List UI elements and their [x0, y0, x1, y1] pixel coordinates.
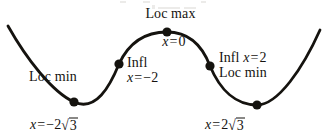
equals-sign: =	[36, 117, 46, 132]
label-loc-min-left: Loc min	[29, 70, 77, 85]
radical-sign: √	[229, 118, 237, 133]
label-loc-max: Loc max	[119, 7, 222, 22]
coefficient-minus-two: −2	[46, 117, 61, 132]
label-inflection-left-title: Infl	[127, 56, 158, 71]
label-inflection-right-block: Infl x=2 Loc min	[219, 51, 267, 81]
radicand-three: 3	[69, 118, 78, 133]
square-root-expression: √3	[61, 117, 77, 133]
label-local-max-x-value: x=0	[139, 35, 209, 50]
label-inflection-right-title: Infl	[219, 50, 240, 65]
equals-sign: =	[211, 117, 221, 132]
equals-sign: =	[169, 34, 179, 49]
radicand-three: 3	[236, 118, 245, 133]
value-minus-two: −2	[143, 70, 158, 85]
label-loc-min-left-text: Loc min	[29, 69, 77, 84]
value-zero: 0	[179, 34, 186, 49]
point-inflection-left	[114, 59, 123, 68]
variable-x: x	[162, 34, 168, 49]
point-inflection-right	[205, 61, 214, 70]
equals-sign: =	[250, 50, 260, 65]
value-two: 2	[260, 50, 267, 65]
point-local-minimum-right	[252, 100, 261, 109]
label-inflection-left: Infl x=−2	[127, 56, 158, 86]
calculus-curve-figure: Loc max x=0 Loc min Infl x=−2 Infl x=2 L…	[0, 0, 331, 140]
label-x-left-minimum: x=−2√3	[30, 117, 78, 133]
label-loc-max-text: Loc max	[145, 6, 195, 21]
label-inflection-right-line: Infl x=2	[219, 51, 267, 66]
radical-sign: √	[62, 118, 70, 133]
square-root-expression: √3	[228, 117, 244, 133]
label-loc-min-right: Loc min	[219, 66, 267, 81]
label-x-right-minimum: x=2√3	[205, 117, 245, 133]
label-inflection-left-x: x=−2	[127, 71, 158, 86]
variable-x: x	[243, 50, 249, 65]
equals-sign: =	[133, 70, 143, 85]
point-local-minimum-left	[69, 97, 78, 106]
